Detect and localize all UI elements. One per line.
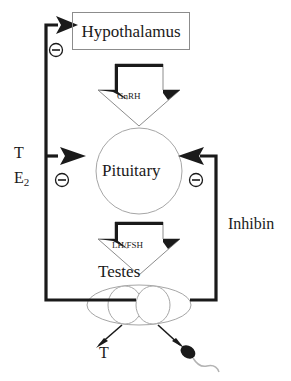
hypothalamus-label: Hypothalamus [81, 23, 180, 40]
minus-sign-pituitary-left [56, 174, 69, 187]
testes-shape [87, 285, 191, 325]
hpg-axis-diagram: Hypothalamus Pituitary Testes GnRH LH/FS… [0, 0, 291, 381]
sperm-icon [178, 342, 219, 372]
estradiol-base: E [14, 169, 24, 186]
estradiol-subscript: 2 [24, 176, 30, 188]
inhibin-label: Inhibin [228, 216, 274, 232]
pituitary-label: Pituitary [102, 162, 161, 179]
diagram-vector-layer [0, 0, 291, 381]
inhibin-feedback-path [178, 147, 216, 300]
gnrh-arrow-label: GnRH [117, 92, 141, 101]
testis-right-oval [136, 286, 170, 324]
minus-sign-hypothalamus [50, 44, 63, 57]
testosterone-output-label: T [99, 345, 109, 361]
estradiol-feedback-label: E2 [14, 170, 29, 188]
lhfsh-arrow-label: LH/FSH [112, 241, 143, 250]
arrowhead-to-pituitary-left [60, 147, 86, 165]
hypothalamus-node: Hypothalamus [72, 12, 190, 50]
testosterone-feedback-label: T [14, 145, 24, 161]
minus-sign-pituitary-right [190, 174, 203, 187]
sperm-output-arrow [158, 325, 184, 348]
testes-label: Testes [98, 263, 140, 280]
